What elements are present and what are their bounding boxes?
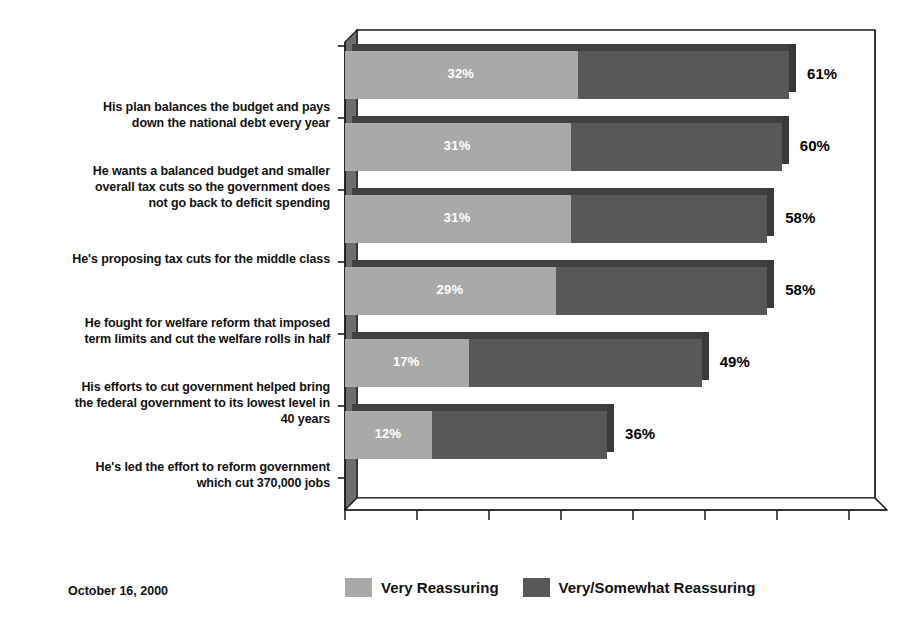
legend-label: Very Reassuring [381,579,499,596]
plot-floor [345,498,887,510]
category-label: He's proposing tax cuts for the middle c… [30,251,330,267]
category-label-line: He wants a balanced budget and smaller [30,163,330,179]
chart-plot-area: 32%61%31%60%31%58%29%58%17%49%12%36% [330,20,890,520]
plot-left-wall [345,30,357,510]
date-stamp: October 16, 2000 [68,584,168,598]
category-label-line: term limits and cut the welfare rolls in… [30,331,330,347]
category-label-line: He fought for welfare reform that impose… [30,315,330,331]
category-label-column: His plan balances the budget and paysdow… [30,40,330,500]
category-label-line: overall tax cuts so the government does [30,179,330,195]
legend-entry[interactable]: Very/Somewhat Reassuring [523,578,756,597]
category-label: His efforts to cut government helped bri… [30,379,330,427]
category-label: He fought for welfare reform that impose… [30,315,330,347]
category-label-line: 40 years [30,411,330,427]
category-label-line: down the national debt every year [30,115,330,131]
category-label: His plan balances the budget and paysdow… [30,99,330,131]
legend-swatch-icon [523,578,550,597]
category-label-line: His efforts to cut government helped bri… [30,379,330,395]
category-label-line: not go back to deficit spending [30,195,330,211]
category-label: He wants a balanced budget and smallerov… [30,163,330,211]
category-label-line: the federal government to its lowest lev… [30,395,330,411]
category-label-line: His plan balances the budget and pays [30,99,330,115]
legend-label: Very/Somewhat Reassuring [559,579,756,596]
chart-legend: Very ReassuringVery/Somewhat Reassuring [345,578,755,597]
category-label: He's led the effort to reform government… [30,459,330,491]
category-label-line: which cut 370,000 jobs [30,475,330,491]
legend-entry[interactable]: Very Reassuring [345,578,499,597]
category-label-line: He's proposing tax cuts for the middle c… [30,251,330,267]
legend-swatch-icon [345,578,372,597]
plot-back-wall [357,30,875,498]
category-label-line: He's led the effort to reform government [30,459,330,475]
chart-frame-3d [330,20,890,520]
